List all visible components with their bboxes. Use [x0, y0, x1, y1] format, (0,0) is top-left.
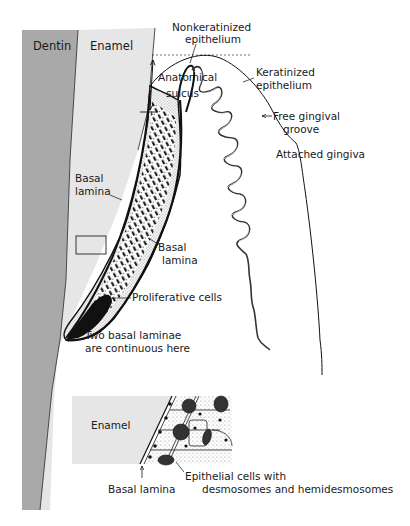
attached-gingiva-label: Attached gingiva — [276, 148, 365, 160]
basal-lamina-outer-label-1: Basal — [158, 241, 186, 253]
basal-lamina-inner-label-2: lamina — [75, 185, 111, 197]
keratinized-label-2: epithelium — [256, 79, 312, 91]
inset-epithelial-label-2: desmosomes and hemidesmosomes — [202, 483, 393, 495]
nonkeratinized-label-2: epithelium — [185, 33, 241, 45]
continuous-label-1: Two basal laminae — [84, 329, 181, 341]
free-groove-label-1: Free gingival — [273, 110, 340, 122]
nonkeratinized-leader — [190, 44, 196, 63]
inset-epithelial-label-1: Epithelial cells with — [185, 470, 286, 482]
enamel-label: Enamel — [90, 39, 133, 53]
continuous-label-2: are continuous here — [85, 342, 190, 354]
anatomical-sulcus-label-2: sulcus — [166, 87, 199, 99]
dentin-label: Dentin — [33, 39, 71, 53]
inset-enamel-label: Enamel — [91, 419, 130, 431]
nonkeratinized-label-1: Nonkeratinized — [172, 21, 251, 33]
free-groove-label-2: groove — [283, 123, 319, 135]
rete-pegs-wavy-line — [192, 67, 270, 350]
junctional-epithelium-diagram: Dentin Enamel Nonkeratinized epithelium … — [0, 0, 410, 526]
basal-lamina-outer-label-2: lamina — [162, 254, 198, 266]
inset-basal-lamina-label: Basal lamina — [108, 483, 175, 495]
basal-lamina-inner-label-1: Basal — [75, 172, 103, 184]
anatomical-sulcus-label-1: Anatomical — [158, 71, 217, 83]
proliferative-label: Proliferative cells — [132, 291, 222, 303]
keratinized-label-1: Keratinized — [256, 66, 315, 78]
